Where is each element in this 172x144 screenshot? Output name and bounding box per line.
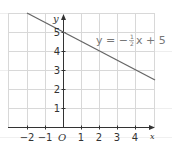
svg-text:3: 3 — [114, 132, 120, 143]
svg-text:1: 1 — [78, 132, 84, 143]
svg-text:4: 4 — [132, 132, 138, 143]
origin-label: O — [58, 132, 66, 143]
svg-text:1: 1 — [130, 33, 134, 40]
svg-text:3: 3 — [54, 65, 60, 76]
x-axis-label: x — [150, 132, 155, 141]
svg-text:−1: −1 — [38, 132, 53, 143]
svg-text:x + 5: x + 5 — [136, 34, 166, 47]
y-tick-labels: 1 2 3 4 5 — [54, 27, 60, 114]
svg-text:1: 1 — [54, 103, 60, 114]
svg-text:2: 2 — [54, 84, 60, 95]
svg-text:4: 4 — [54, 46, 60, 57]
svg-text:y = −: y = − — [96, 34, 128, 47]
equation-label: y = − 1 2 x + 5 — [96, 33, 166, 47]
svg-text:−2: −2 — [20, 132, 35, 143]
linear-function-graph: −2 −1 O 1 2 3 4 1 2 3 4 5 y x y = − 1 2 … — [0, 0, 172, 144]
svg-text:2: 2 — [130, 40, 134, 47]
y-axis-label: y — [52, 13, 59, 24]
y-axis-arrow-icon — [61, 14, 66, 20]
svg-text:5: 5 — [54, 27, 60, 38]
svg-text:2: 2 — [96, 132, 102, 143]
